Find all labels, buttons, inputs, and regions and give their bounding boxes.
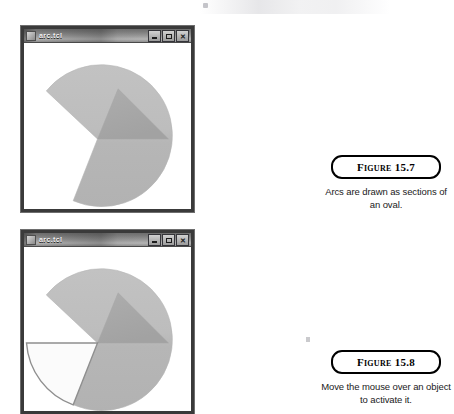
window-2-titlebar[interactable]: arc.tcl ✕: [24, 233, 191, 247]
figure-label-text: Figure 15.8: [357, 356, 415, 368]
arc-drawing-1: [24, 43, 191, 209]
figure-label-pill: Figure 15.7: [331, 155, 441, 179]
scan-artifact-mark: [306, 337, 310, 342]
figure-caption: Arcs are drawn as sections of an oval.: [320, 186, 452, 211]
minimize-button[interactable]: [148, 30, 161, 42]
figure-callout-1: Figure 15.7 Arcs are drawn as sections o…: [320, 155, 452, 211]
figure-callout-2: Figure 15.8 Move the mouse over an objec…: [320, 350, 452, 406]
close-button[interactable]: ✕: [176, 30, 189, 42]
window-1-title: arc.tcl: [39, 32, 62, 39]
app-icon: [26, 235, 36, 245]
figure-label-text: Figure 15.7: [357, 161, 415, 173]
window-2-controls: ✕: [148, 234, 189, 246]
maximize-button[interactable]: [162, 234, 175, 246]
maximize-button[interactable]: [162, 30, 175, 42]
window-2-title: arc.tcl: [39, 236, 62, 243]
window-2-canvas[interactable]: [24, 247, 191, 411]
arc-tcl-window-2[interactable]: arc.tcl ✕: [21, 230, 194, 414]
window-1-canvas[interactable]: [24, 43, 191, 209]
app-icon: [26, 31, 36, 41]
scan-artifact-dot: [203, 3, 208, 8]
scan-artifact-top: [0, 0, 454, 14]
window-1-controls: ✕: [148, 30, 189, 42]
window-1-titlebar[interactable]: arc.tcl ✕: [24, 29, 191, 43]
arc-drawing-2: [24, 247, 191, 411]
close-button[interactable]: ✕: [176, 234, 189, 246]
figure-caption: Move the mouse over an object to activat…: [320, 381, 452, 406]
figure-label-pill: Figure 15.8: [331, 350, 441, 374]
arc-tcl-window-1[interactable]: arc.tcl ✕: [21, 26, 194, 212]
minimize-button[interactable]: [148, 234, 161, 246]
